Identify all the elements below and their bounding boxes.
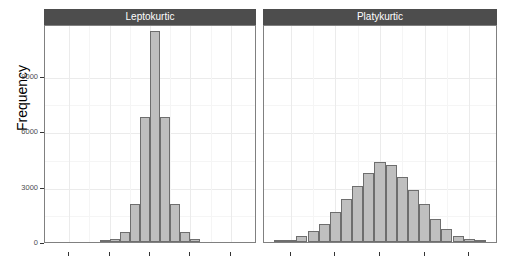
histogram-bar [140,117,150,242]
x-tick-mark [468,252,469,256]
histogram-bar [475,240,486,242]
histogram-bar [441,229,452,242]
panel-platykurtic: Platykurtic [263,9,497,252]
histogram-bar [160,117,170,242]
panel-leptokurtic: Leptokurtic [44,9,256,252]
histogram-bar [100,240,110,242]
y-tick-label: 3000 [4,184,38,192]
histogram-bar [397,177,408,242]
y-tick-mark [40,77,44,78]
x-tick-mark [149,252,150,256]
histogram-bar [386,165,397,242]
y-tick-label: 9000 [4,73,38,81]
histogram-bar [408,190,419,242]
histogram-bar [296,236,307,242]
strip-header-platykurtic: Platykurtic [263,9,497,25]
histogram-bar [464,239,475,242]
x-tick-mark [109,252,110,256]
histogram-bar [319,224,330,242]
y-tick-mark [40,132,44,133]
histogram-bar [285,240,296,242]
x-tick-mark [424,252,425,256]
histogram-bar [120,232,130,242]
plot-area-platykurtic [263,25,497,243]
histogram-bar [352,186,363,242]
histogram-bar [150,31,160,242]
strip-label-leptokurtic: Leptokurtic [126,12,175,22]
histogram-bar [110,239,120,242]
x-tick-mark [290,252,291,256]
histogram-bar [308,231,319,242]
x-axis-leptokurtic [44,252,256,264]
histogram-bar [363,173,374,242]
x-tick-mark [334,252,335,256]
histogram-bar [130,204,140,242]
histogram-bar [430,219,441,242]
x-tick-mark [189,252,190,256]
y-tick-mark [40,243,44,244]
y-tick-label: 0 [4,239,38,247]
histogram-bar [419,204,430,242]
strip-label-platykurtic: Platykurtic [357,12,403,22]
kurtosis-faceted-histogram: Frequency 0300060009000 Leptokurtic Plat… [0,0,507,269]
histogram-bar [170,204,180,242]
y-tick-label: 6000 [4,128,38,136]
histogram-bar [374,162,385,242]
x-tick-mark [230,252,231,256]
y-axis-tick-labels: 0300060009000 [0,0,38,269]
histogram-bar [453,236,464,242]
strip-header-leptokurtic: Leptokurtic [44,9,256,25]
bars-leptokurtic [45,26,255,242]
y-tick-mark [40,188,44,189]
x-tick-mark [379,252,380,256]
histogram-bar [180,232,190,242]
histogram-bar [341,199,352,242]
histogram-bar [330,212,341,242]
bars-platykurtic [264,26,496,242]
histogram-bar [190,239,200,242]
plot-area-leptokurtic [44,25,256,243]
x-axis-platykurtic [263,252,497,264]
x-tick-mark [68,252,69,256]
histogram-bar [274,240,285,242]
